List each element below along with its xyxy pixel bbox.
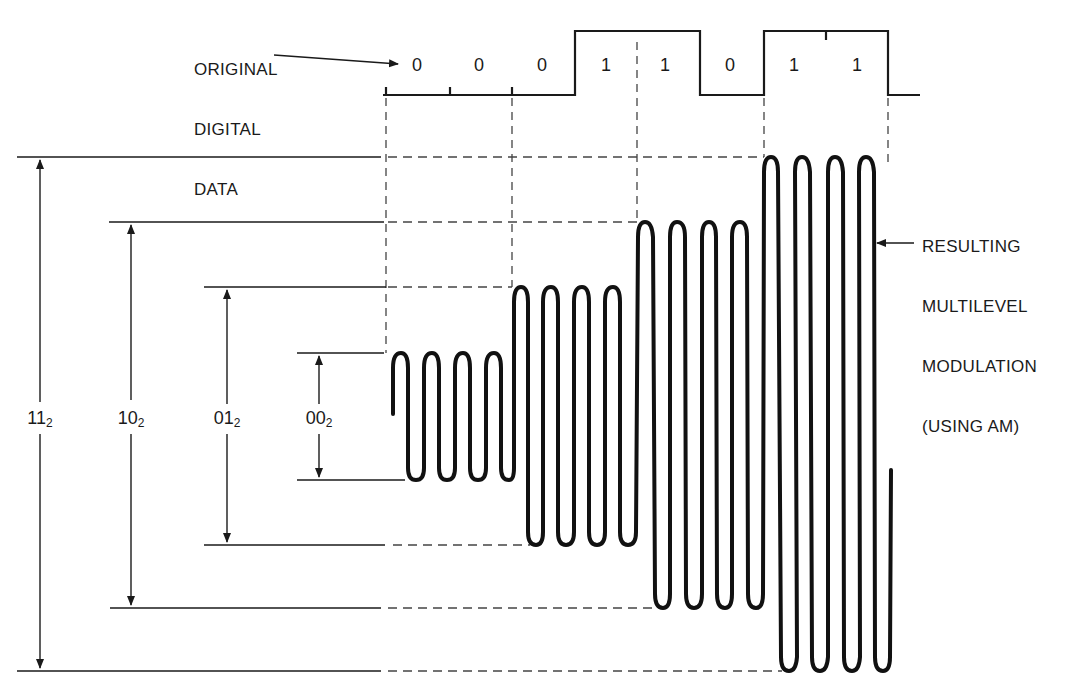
bit-label: 1	[779, 55, 809, 76]
bit-label: 0	[527, 55, 557, 76]
level-code: 00	[306, 408, 326, 428]
bit-label: 0	[402, 55, 432, 76]
level-base: 2	[234, 416, 241, 430]
bit-label: 1	[842, 55, 872, 76]
level-code: 01	[214, 408, 234, 428]
level-base: 2	[46, 416, 53, 430]
dimension-arrows	[40, 160, 319, 668]
level-dashed-extensions	[388, 157, 782, 671]
multilevel-am-diagram	[0, 0, 1078, 693]
level-code: 11	[27, 408, 46, 428]
bit-label: 1	[650, 55, 680, 76]
am-waveform	[393, 157, 891, 671]
original-data-line-2: DIGITAL	[194, 120, 278, 140]
original-data-line-1: ORIGINAL	[194, 60, 278, 80]
data-pointer-arrow	[274, 55, 398, 64]
level-label-11: 112	[18, 404, 62, 434]
resulting-line-3: MODULATION	[922, 357, 1037, 377]
level-code: 10	[118, 408, 138, 428]
resulting-line-2: MULTILEVEL	[922, 297, 1037, 317]
resulting-line-1: RESULTING	[922, 237, 1037, 257]
level-base: 2	[326, 416, 333, 430]
level-label-10: 102	[109, 404, 153, 434]
level-label-00: 002	[297, 404, 341, 434]
bit-label: 1	[591, 55, 621, 76]
bit-label: 0	[715, 55, 745, 76]
bit-label: 0	[464, 55, 494, 76]
resulting-line-4: (USING AM)	[922, 417, 1037, 437]
level-base: 2	[138, 416, 145, 430]
original-data-line-3: DATA	[194, 180, 278, 200]
resulting-modulation-label: RESULTING MULTILEVEL MODULATION (USING A…	[922, 197, 1037, 457]
original-data-label: ORIGINAL DIGITAL DATA	[194, 20, 278, 220]
level-label-01: 012	[205, 404, 249, 434]
